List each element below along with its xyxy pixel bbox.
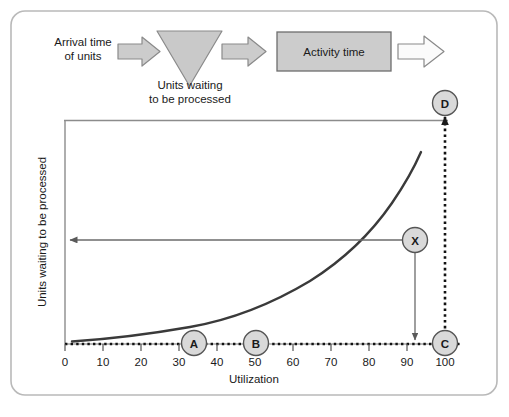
marker-x-label: X — [411, 235, 419, 247]
marker-b[interactable]: B — [244, 331, 269, 356]
x-tick-label: 90 — [401, 356, 414, 368]
x-tick-label: 20 — [135, 356, 148, 368]
queueing-utilization-figure: Arrival time of units Activity time Unit… — [0, 0, 509, 417]
y-axis-title: Units waiting to be processed — [36, 157, 48, 307]
x-tick-label: 100 — [435, 356, 454, 368]
x-tick-label: 80 — [363, 356, 376, 368]
x-tick-label: 30 — [173, 356, 186, 368]
x-axis-title: Utilization — [229, 373, 279, 385]
marker-a-label: A — [190, 338, 198, 350]
x-tick-label: 70 — [325, 356, 338, 368]
x-tick-label: 60 — [287, 356, 300, 368]
arrival-time-label-line1: Arrival time — [54, 36, 112, 48]
x-tick-label: 40 — [211, 356, 224, 368]
x-tick-label: 50 — [249, 356, 262, 368]
marker-a[interactable]: A — [182, 331, 207, 356]
marker-x[interactable]: X — [403, 228, 428, 253]
queue-label-line1: Units waiting — [157, 79, 222, 91]
arrival-time-label-line2: of units — [64, 50, 101, 62]
marker-b-label: B — [252, 338, 260, 350]
marker-c-label: C — [441, 338, 449, 350]
figure-container: Arrival time of units Activity time Unit… — [0, 0, 509, 417]
activity-time-label: Activity time — [303, 46, 364, 58]
marker-c[interactable]: C — [433, 331, 458, 356]
x-tick-label: 0 — [62, 356, 68, 368]
marker-d-label: D — [441, 98, 449, 110]
queue-label-line2: to be processed — [149, 93, 231, 105]
marker-d[interactable]: D — [433, 91, 458, 116]
x-tick-label: 10 — [97, 356, 110, 368]
